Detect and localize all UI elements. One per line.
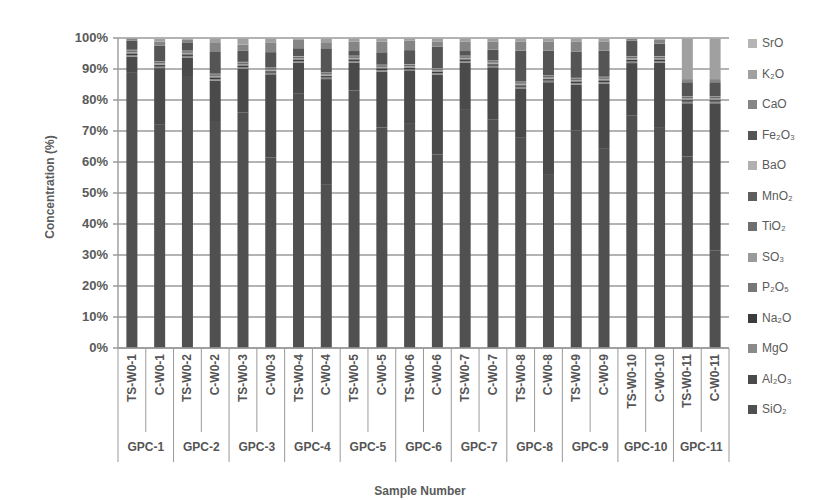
x-tick-label: TS-W0-10	[625, 354, 639, 409]
bar-segment	[154, 39, 165, 42]
bar-segment	[321, 185, 332, 348]
bar-segment	[515, 38, 526, 41]
bar-segment	[460, 51, 471, 56]
y-tick-label: 10%	[52, 309, 108, 324]
y-tick-label: 70%	[52, 123, 108, 138]
bar-segment	[710, 100, 721, 102]
bar-segment	[599, 82, 610, 84]
bar-segment	[487, 38, 498, 41]
bar-segment	[210, 77, 221, 79]
bar-segment	[154, 38, 165, 39]
legend-item: K₂O	[748, 67, 784, 81]
x-tick-label: C-W0-7	[486, 354, 500, 396]
legend-item: Al₂O₃	[748, 372, 792, 386]
bar-TS-W0-3	[237, 38, 248, 348]
bar-segment	[126, 55, 137, 57]
bar-segment	[154, 65, 165, 67]
bar-segment	[349, 63, 360, 91]
bar-segment	[265, 74, 276, 157]
bar-segment	[710, 97, 721, 99]
bar-segment	[126, 40, 137, 49]
bar-segment	[599, 41, 610, 50]
legend-swatch	[748, 70, 757, 79]
bar-segment	[182, 51, 193, 53]
bar-C-W0-7	[487, 38, 498, 348]
bar-segment	[682, 82, 693, 96]
bar-segment	[404, 50, 415, 64]
legend-swatch	[748, 283, 757, 292]
bar-segment	[237, 45, 248, 51]
bar-segment	[293, 48, 304, 56]
bar-segment	[154, 67, 165, 69]
bar-segment	[432, 47, 443, 68]
bar-segment	[599, 148, 610, 348]
bar-segment	[349, 51, 360, 56]
bar-segment	[515, 85, 526, 86]
legend-label: BaO	[762, 158, 786, 172]
legend-swatch	[748, 375, 757, 384]
legend-item: SiO₂	[748, 402, 787, 416]
bar-segment	[571, 83, 582, 85]
bar-segment	[210, 74, 221, 76]
bar-segment	[432, 69, 443, 71]
bar-segment	[626, 59, 637, 60]
y-tick-label: 30%	[52, 247, 108, 262]
bar-C-W0-11	[710, 38, 721, 348]
group-label: GPC-1	[118, 440, 174, 454]
bar-segment	[543, 175, 554, 348]
bar-segment	[349, 59, 360, 60]
bar-segment	[654, 58, 665, 59]
bar-TS-W0-2	[182, 38, 193, 348]
bar-segment	[432, 71, 443, 72]
bar-C-W0-8	[543, 38, 554, 348]
bar-segment	[460, 38, 471, 41]
bar-segment	[404, 68, 415, 70]
group-label: GPC-10	[618, 440, 674, 454]
legend-label: TiO₂	[762, 219, 786, 233]
bar-segment	[654, 44, 665, 56]
legend-swatch	[748, 131, 757, 140]
bar-segment	[487, 64, 498, 65]
bar-segment	[265, 71, 276, 72]
bar-TS-W0-5	[349, 38, 360, 348]
bar-segment	[376, 68, 387, 69]
bar-segment	[626, 63, 637, 116]
legend-label: Fe₂O₃	[762, 128, 795, 142]
y-tick-label: 40%	[52, 216, 108, 231]
bar-segment	[265, 38, 276, 43]
bar-segment	[182, 40, 193, 43]
y-tick-label: 90%	[52, 61, 108, 76]
bar-TS-W0-6	[404, 38, 415, 348]
group-label: GPC-11	[673, 440, 729, 454]
bar-segment	[321, 48, 332, 72]
bar-segment	[487, 50, 498, 61]
legend-item: MnO₂	[748, 189, 793, 203]
y-tick-label: 100%	[52, 30, 108, 45]
group-label: GPC-3	[229, 440, 285, 454]
bar-segment	[404, 69, 415, 71]
bar-segment	[432, 38, 443, 41]
bar-segment	[626, 39, 637, 41]
bar-segment	[571, 52, 582, 78]
bar-segment	[460, 59, 471, 60]
bar-segment	[626, 57, 637, 59]
legend-swatch	[748, 222, 757, 231]
legend-label: CaO	[762, 97, 787, 111]
bar-segment	[654, 38, 665, 40]
bar-segment	[237, 66, 248, 68]
bar-segment	[210, 38, 221, 43]
bar-segment	[182, 53, 193, 54]
bar-segment	[682, 97, 693, 99]
bar-segment	[293, 59, 304, 60]
bar-segment	[571, 81, 582, 82]
bar-segment	[599, 51, 610, 77]
bar-segment	[432, 41, 443, 46]
bar-segment	[349, 56, 360, 58]
legend-item: TiO₂	[748, 219, 786, 233]
bar-segment	[210, 81, 221, 121]
bar-segment	[682, 99, 693, 100]
bar-segment	[265, 71, 276, 73]
bar-segment	[515, 87, 526, 89]
bar-segment	[126, 50, 137, 52]
bar-segment	[182, 54, 193, 55]
